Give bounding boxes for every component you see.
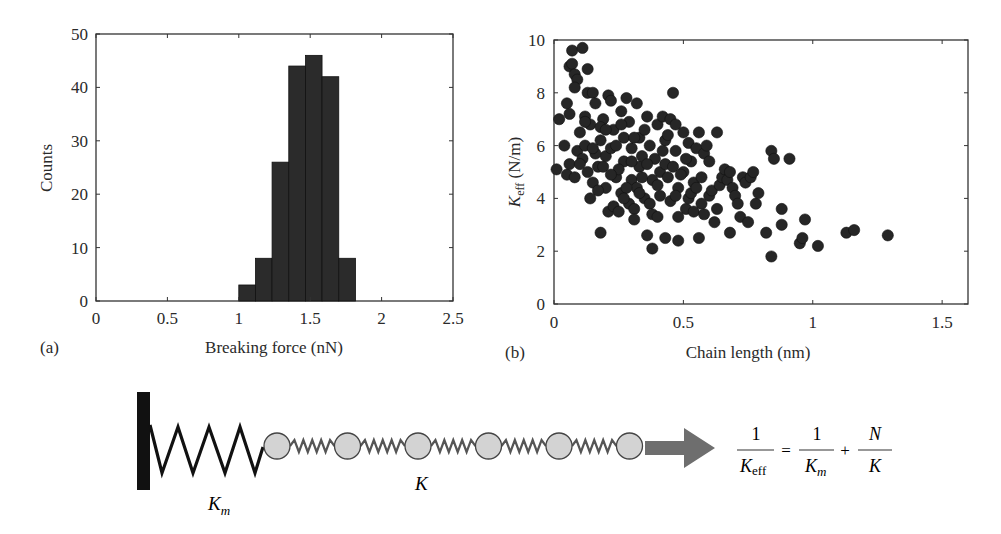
eq-term2-denominator: K <box>868 456 882 476</box>
eq-term1-numerator: 1 <box>813 424 822 444</box>
scatter-point <box>592 185 603 196</box>
histogram-bar <box>272 162 289 301</box>
scatter-point <box>642 111 653 122</box>
scatter-point <box>569 172 580 183</box>
scatter-point <box>812 240 823 251</box>
scatter-point <box>670 190 681 201</box>
scatter-point <box>582 63 593 74</box>
scatter-point <box>882 230 893 241</box>
scatter-point <box>616 119 627 130</box>
x-tick-label: 2.5 <box>442 309 463 328</box>
scatter-y-axis-label: Keff (N/m) <box>505 137 527 208</box>
x-tick-label: 0 <box>92 309 101 328</box>
scatter-x-axis-label: Chain length (nm) <box>686 343 811 362</box>
scatter-point <box>559 140 570 151</box>
scatter-point <box>642 230 653 241</box>
scatter-point <box>587 143 598 154</box>
y-tick-label: 40 <box>71 78 88 97</box>
histogram-bar <box>239 285 256 301</box>
y-tick-label: 8 <box>537 84 546 103</box>
eq-lhs-numerator: 1 <box>752 424 761 444</box>
scatter-point <box>768 153 779 164</box>
scatter-point <box>561 98 572 109</box>
scatter-panel-b: 00.511.50246810 Chain length (nm) Keff (… <box>505 31 968 362</box>
scatter-point <box>629 203 640 214</box>
scatter-point <box>680 153 691 164</box>
scatter-point <box>657 145 668 156</box>
y-tick-label: 4 <box>537 189 546 208</box>
histogram-bar <box>339 258 356 301</box>
scatter-point <box>797 232 808 243</box>
bead <box>546 433 572 459</box>
scatter-point <box>564 108 575 119</box>
scatter-point <box>621 182 632 193</box>
x-tick-label: 2 <box>377 309 386 328</box>
pull-arrow <box>645 428 715 468</box>
scatter-point <box>748 166 759 177</box>
wall-anchor <box>137 392 150 490</box>
x-tick-label: 1.5 <box>300 309 321 328</box>
y-tick-label: 6 <box>537 137 546 156</box>
panel-label-a: (a) <box>40 338 59 357</box>
scatter-point <box>709 217 720 228</box>
scatter-point <box>590 98 601 109</box>
scatter-point <box>652 180 663 191</box>
scatter-point <box>799 214 810 225</box>
scatter-point <box>600 124 611 135</box>
eq-lhs-denominator: Keff <box>739 456 767 478</box>
scatter-point <box>693 232 704 243</box>
scatter-point <box>621 92 632 103</box>
scatter-point <box>595 227 606 238</box>
scatter-point <box>626 143 637 154</box>
effective-stiffness-equation: 1 Keff = 1 Km + N K <box>737 424 892 479</box>
histogram-bar <box>256 258 273 301</box>
x-tick-label: 0.5 <box>157 309 178 328</box>
histogram-bars <box>239 55 356 301</box>
scatter-point <box>579 116 590 127</box>
y-tick-label: 50 <box>71 25 88 44</box>
figure: 00.511.522.501020304050 Breaking force (… <box>0 0 1001 534</box>
histogram-y-axis-label: Counts <box>37 144 56 192</box>
label-km: Km <box>207 493 230 518</box>
scatter-point <box>711 127 722 138</box>
scatter-point <box>724 227 735 238</box>
scatter-point <box>567 58 578 69</box>
scatter-point <box>776 203 787 214</box>
label-k: K <box>414 473 429 494</box>
scatter-point <box>567 45 578 56</box>
y-tick-label: 20 <box>71 185 88 204</box>
scatter-point <box>577 42 588 53</box>
scatter-point <box>691 182 702 193</box>
bead-chain <box>264 433 643 459</box>
scatter-point <box>569 82 580 93</box>
scatter-point <box>696 198 707 209</box>
eq-term1-denominator: Km <box>804 456 826 479</box>
x-tick-label: 1 <box>235 309 244 328</box>
scatter-point <box>644 140 655 151</box>
y-tick-label: 0 <box>537 295 546 314</box>
scatter-point <box>660 232 671 243</box>
scatter-point <box>711 203 722 214</box>
histogram-panel-a: 00.511.522.501020304050 Breaking force (… <box>37 25 464 357</box>
scatter-point <box>611 140 622 151</box>
scatter-point <box>574 127 585 138</box>
spring-chain-diagram: Km K 1 Keff = 1 Km + N K <box>137 392 892 518</box>
scatter-points <box>551 42 893 262</box>
scatter-point <box>766 251 777 262</box>
scatter-point <box>605 169 616 180</box>
scatter-point <box>662 172 673 183</box>
scatter-point <box>678 127 689 138</box>
scatter-point <box>554 114 565 125</box>
scatter-point <box>784 153 795 164</box>
bead <box>476 433 502 459</box>
scatter-point <box>761 227 772 238</box>
eq-plus: + <box>840 441 850 460</box>
scatter-point <box>613 206 624 217</box>
scatter-point <box>698 209 709 220</box>
spring-km <box>150 425 263 473</box>
bead <box>617 433 643 459</box>
scatter-point <box>642 158 653 169</box>
scatter-point <box>634 188 645 199</box>
scatter-point <box>647 243 658 254</box>
y-tick-label: 2 <box>537 242 546 261</box>
